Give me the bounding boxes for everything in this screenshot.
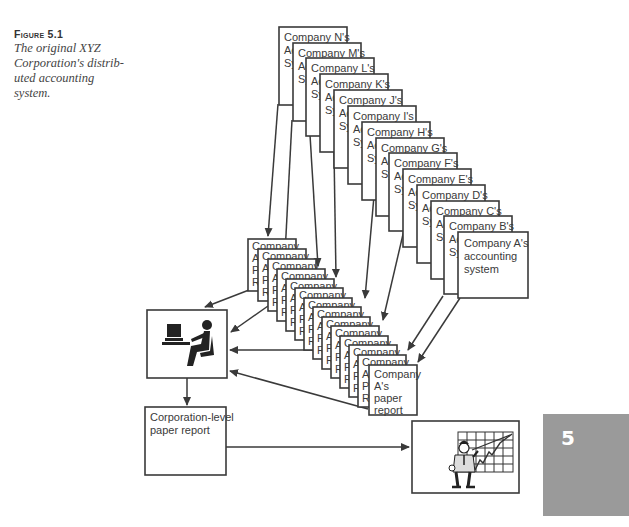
corporate-report-node[interactable]: Corporation-level paper report xyxy=(145,407,234,475)
svg-text:Company D's: Company D's xyxy=(422,189,488,201)
svg-text:A's: A's xyxy=(374,380,389,392)
executive-node[interactable] xyxy=(412,421,519,493)
svg-text:Company I's: Company I's xyxy=(353,110,414,122)
svg-text:Company F's: Company F's xyxy=(394,157,459,169)
accounting-system-stack: Company N's Accounting System Company M'… xyxy=(279,27,529,298)
svg-text:Company C's: Company C's xyxy=(436,205,502,217)
svg-text:accounting: accounting xyxy=(464,250,517,262)
svg-text:Company H's: Company H's xyxy=(367,126,433,138)
svg-text:Company N's: Company N's xyxy=(284,31,350,43)
svg-text:paper: paper xyxy=(374,392,402,404)
accounting-diagram: Company N's Accounting System Company M'… xyxy=(0,0,629,527)
svg-text:system: system xyxy=(464,263,499,275)
svg-text:Company G's: Company G's xyxy=(381,142,448,154)
svg-text:Corporation-level: Corporation-level xyxy=(150,411,234,423)
chapter-number: 5 xyxy=(561,426,575,450)
svg-text:report: report xyxy=(374,404,403,416)
svg-text:Company: Company xyxy=(374,368,422,380)
accounting-system-A[interactable]: Company A's accounting system xyxy=(458,232,529,298)
svg-text:Company J's: Company J's xyxy=(339,94,403,106)
svg-text:Company B's: Company B's xyxy=(449,220,515,232)
svg-text:Company E's: Company E's xyxy=(408,173,474,185)
svg-text:paper report: paper report xyxy=(150,424,210,436)
data-entry-node[interactable] xyxy=(147,310,227,378)
svg-text:Company K's: Company K's xyxy=(325,78,391,90)
paper-report-A[interactable]: CompanyA'spaperreport xyxy=(369,365,422,416)
svg-text:Company L's: Company L's xyxy=(311,62,375,74)
svg-text:Company A's: Company A's xyxy=(464,237,529,249)
chapter-tab: 5 xyxy=(543,414,629,516)
